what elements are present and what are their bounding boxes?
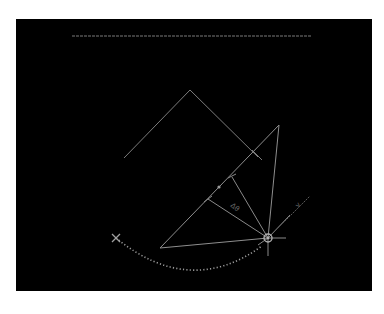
rotated-square-outline [124,90,258,158]
hub-center-dot [267,237,270,240]
diagram-drawing: v Δθ [0,0,384,314]
hub-rays [208,177,290,256]
angle-label: Δθ [229,201,241,213]
start-x-icon [112,234,120,242]
direction-arrow [276,196,310,230]
direction-label: v [294,201,303,210]
centroid-dot [217,185,220,188]
dotted-trajectory-arc [116,238,262,270]
